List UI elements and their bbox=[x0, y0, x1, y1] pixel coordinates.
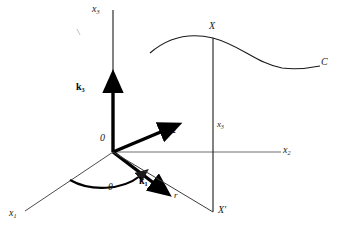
basis-vector-k2-arrow bbox=[113, 131, 163, 152]
angle-theta-arc bbox=[70, 176, 140, 188]
origin-label: 0 bbox=[100, 133, 105, 143]
point-x-prime-label: X′ bbox=[218, 205, 226, 215]
basis-vector-k2-label: k2 bbox=[167, 123, 176, 133]
axis-label-x1: x1 bbox=[9, 208, 17, 218]
basis-vector-k3-label: k3 bbox=[76, 82, 85, 92]
height-segment-label: x3 bbox=[217, 120, 224, 129]
angle-theta-label: θ bbox=[108, 182, 113, 192]
point-x-label: X bbox=[209, 21, 215, 31]
figure-canvas bbox=[0, 0, 340, 235]
axis-label-x2: x2 bbox=[283, 145, 291, 155]
space-curve-c bbox=[150, 36, 320, 69]
radial-segment-label: r bbox=[174, 191, 178, 200]
basis-vector-k1-label: k1 bbox=[139, 176, 148, 186]
axis-label-x3: x3 bbox=[92, 4, 100, 14]
coordinate-system-figure: x3 x2 x1 0 θ k3 k2 k1 x3 r X X′ C bbox=[0, 0, 340, 235]
axis-x1-line bbox=[25, 152, 113, 211]
curve-c-label: C bbox=[321, 57, 328, 67]
scan-artifact-mark bbox=[77, 29, 80, 35]
